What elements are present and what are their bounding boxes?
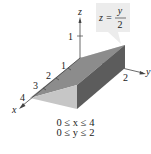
z-tick-label-1: 1 bbox=[68, 31, 73, 42]
equation-numerator: y bbox=[117, 5, 123, 16]
y-tick-label-2: 2 bbox=[123, 72, 128, 83]
z-axis-label: z bbox=[77, 6, 82, 17]
equation-lhs: z = bbox=[98, 12, 112, 23]
x-tick-label-1: 1 bbox=[61, 60, 66, 71]
equation-denominator: 2 bbox=[118, 19, 123, 30]
equation-callout-pointer bbox=[108, 32, 121, 44]
x-tick-label-3: 3 bbox=[33, 80, 38, 91]
condition-y-range: 0 ≤ y ≤ 2 bbox=[0, 128, 151, 138]
x-axis-label: x bbox=[11, 104, 17, 115]
x-tick-label-4: 4 bbox=[20, 92, 25, 103]
z-axis-arrow-icon bbox=[79, 17, 82, 23]
y-axis-label: y bbox=[145, 66, 151, 77]
x-tick-label-2: 2 bbox=[46, 70, 51, 81]
